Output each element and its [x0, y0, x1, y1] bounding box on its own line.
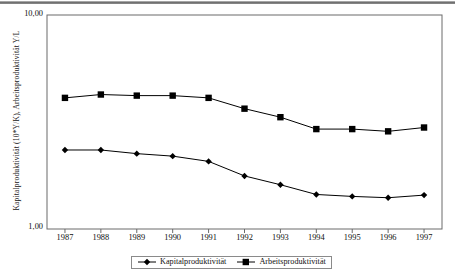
x-tick-label: 1992: [228, 233, 262, 242]
legend-label: Arbeitsproduktivität: [259, 258, 325, 266]
square-marker: [236, 257, 256, 267]
chart-legend: KapitalproduktivitätArbeitsproduktivität: [131, 256, 332, 269]
y-tick-label-max: 10,00: [17, 9, 43, 18]
legend-entry: Kapitalproduktivität: [137, 257, 226, 267]
chart-figure: Kapitalproduktivität (10*Y/K), Arbeitspr…: [0, 0, 455, 277]
x-tick-label: 1989: [120, 233, 154, 242]
square-marker: [385, 128, 391, 134]
x-tick-label: 1990: [156, 233, 190, 242]
x-tick-label: 1996: [371, 233, 405, 242]
x-tick-label: 1987: [48, 233, 82, 242]
square-marker: [134, 92, 140, 98]
x-tick-label: 1991: [192, 233, 226, 242]
square-marker-glyph: [243, 259, 249, 265]
diamond-marker-glyph: [144, 259, 150, 265]
square-marker: [241, 105, 247, 111]
square-marker: [421, 124, 427, 130]
x-tick-label: 1994: [299, 233, 333, 242]
square-marker: [98, 91, 104, 97]
y-axis-title: Kapitalproduktivität (10*Y/K), Arbeitspr…: [12, 18, 21, 223]
legend-entry: Arbeitsproduktivität: [236, 257, 325, 267]
square-marker: [62, 95, 68, 101]
square-marker: [277, 114, 283, 120]
square-marker: [313, 126, 319, 132]
x-tick-label: 1995: [335, 233, 369, 242]
x-tick-label: 1988: [84, 233, 118, 242]
y-tick-label-min: 1,00: [17, 222, 43, 231]
square-marker: [349, 126, 355, 132]
diamond-marker: [137, 257, 157, 267]
square-marker: [205, 95, 211, 101]
x-tick-label: 1993: [263, 233, 297, 242]
plot-frame: [47, 15, 442, 229]
legend-label: Kapitalproduktivität: [160, 258, 226, 266]
x-tick-label: 1997: [407, 233, 441, 242]
square-marker: [169, 92, 175, 98]
